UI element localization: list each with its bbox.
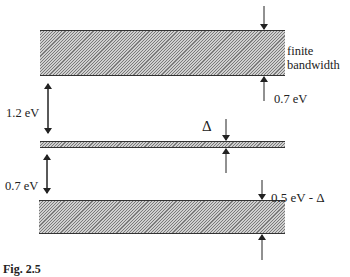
finite-bandwidth-line2: bandwidth bbox=[287, 59, 340, 72]
figure-caption: Fig. 2.5 bbox=[3, 262, 41, 277]
delta-label: Δ bbox=[202, 119, 212, 134]
finite-bandwidth-line1: finite bbox=[287, 45, 313, 58]
gap-upper-label: 1.2 eV bbox=[6, 107, 39, 120]
upper-band-width-label: 0.7 eV bbox=[274, 93, 307, 106]
lower-band-width-label: 0.5 eV - Δ bbox=[271, 191, 325, 204]
gap-lower-label: 0.7 eV bbox=[5, 180, 38, 193]
